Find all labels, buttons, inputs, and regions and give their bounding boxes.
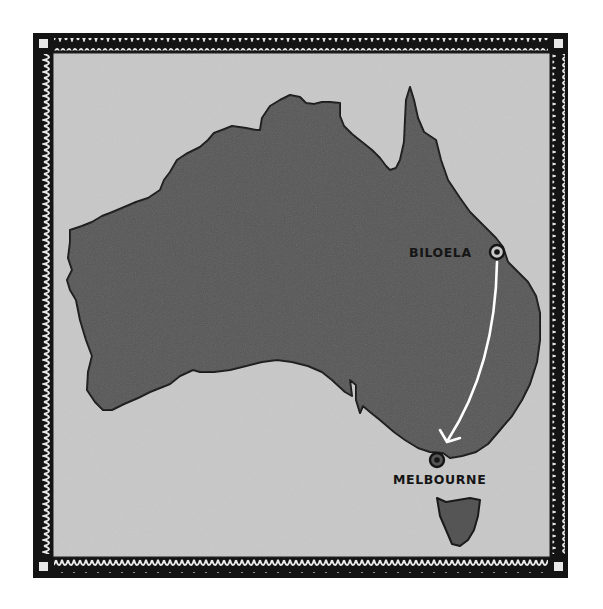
melbourne-label: MELBOURNE (393, 472, 486, 487)
biloela-label: BILOELA (409, 245, 472, 260)
corner-square-icon (39, 39, 48, 48)
corner-square-icon (39, 562, 48, 571)
corner-square-icon (554, 562, 563, 571)
map-canvas: BILOELA MELBOURNE (0, 0, 603, 609)
corner-square-icon (554, 39, 563, 48)
